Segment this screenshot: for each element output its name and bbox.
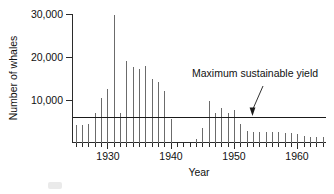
scan-artifact	[48, 182, 62, 189]
whale-catch-chart-figure: 30,000 20,000 10,000 1930 1940 1950 1960…	[0, 0, 334, 194]
y-tick-label-10000: 10,000	[31, 94, 63, 106]
x-tick-label-1930: 1930	[96, 150, 120, 162]
x-axis-title: Year	[188, 166, 210, 178]
annotation-label: Maximum sustainable yield	[192, 67, 318, 79]
annotation-arrow	[250, 86, 263, 116]
x-tick-label-1940: 1940	[159, 150, 183, 162]
chart-canvas: 30,000 20,000 10,000 1930 1940 1950 1960…	[0, 0, 334, 194]
x-tick-label-1950: 1950	[222, 150, 246, 162]
y-tick-label-30000: 30,000	[31, 8, 63, 20]
x-axis-ticks	[77, 143, 324, 149]
y-axis-ticks	[66, 15, 73, 101]
x-tick-label-1960: 1960	[285, 150, 309, 162]
y-axis-title: Number of whales	[7, 36, 19, 121]
y-tick-label-20000: 20,000	[31, 51, 63, 63]
